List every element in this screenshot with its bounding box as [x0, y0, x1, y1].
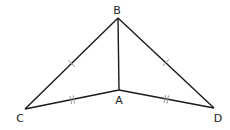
label-d: D [214, 112, 222, 125]
segment-ba [118, 18, 119, 90]
segment-ca [25, 90, 119, 109]
label-a: A [115, 94, 123, 107]
segment-ad [119, 90, 214, 108]
label-b: B [113, 4, 121, 17]
geometry-diagram: B A C D [0, 0, 230, 130]
label-c: C [16, 112, 24, 125]
